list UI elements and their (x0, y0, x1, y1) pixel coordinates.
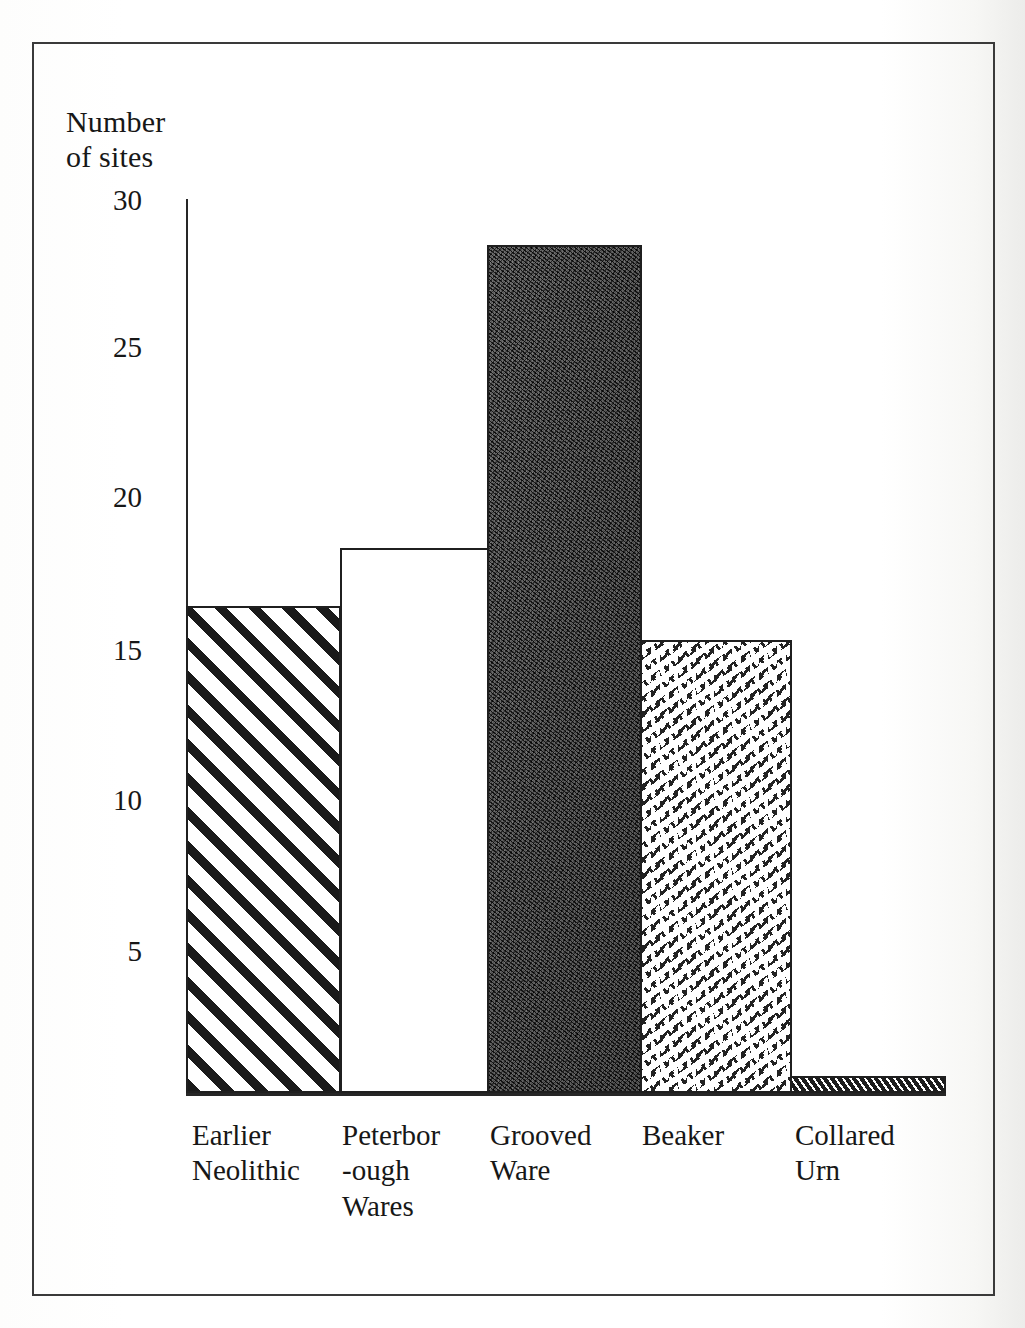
bar-beaker[interactable] (640, 640, 792, 1093)
x-label-line: Grooved (490, 1118, 640, 1153)
x-label-line: Wares (342, 1189, 492, 1224)
x-label-line: Earlier (192, 1118, 342, 1153)
x-label-line: Peterbor (342, 1118, 492, 1153)
x-label-grooved-ware: Grooved Ware (490, 1118, 640, 1189)
x-label-line: Urn (795, 1153, 955, 1188)
x-label-line: Beaker (642, 1118, 792, 1153)
x-label-line: Ware (490, 1153, 640, 1188)
x-label-line: Neolithic (192, 1153, 342, 1188)
bar-chart: Number of sites 30 25 20 15 10 5 Earlier… (0, 0, 1025, 1328)
x-label-line: -ough (342, 1153, 492, 1188)
bar-earlier-neolithic[interactable] (186, 606, 341, 1093)
x-label-peterborough-wares: Peterbor -ough Wares (342, 1118, 492, 1224)
x-label-beaker: Beaker (642, 1118, 792, 1153)
bar-grooved-ware[interactable] (487, 245, 642, 1093)
bar-collared-urn[interactable] (790, 1076, 946, 1093)
bar-peterborough-wares[interactable] (340, 548, 490, 1093)
x-label-collared-urn: Collared Urn (795, 1118, 955, 1189)
x-label-earlier-neolithic: Earlier Neolithic (192, 1118, 342, 1189)
x-label-line: Collared (795, 1118, 955, 1153)
